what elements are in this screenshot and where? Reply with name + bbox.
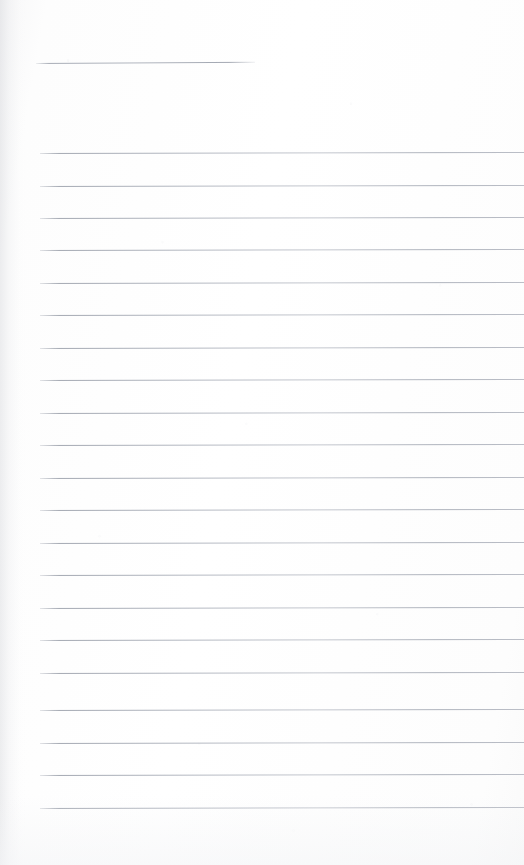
rule-line (40, 185, 524, 187)
rule-line (40, 807, 524, 809)
rule-line (40, 477, 524, 479)
scanned-page (0, 0, 524, 865)
rule-line (40, 774, 524, 776)
rule-line (40, 709, 524, 711)
rule-line (40, 314, 524, 316)
rule-line (40, 509, 524, 511)
rule-line (40, 152, 524, 154)
rule-line (40, 217, 524, 219)
rule-line (40, 607, 524, 609)
rule-line (40, 379, 524, 381)
rule-line (40, 742, 524, 744)
header-rule-line (36, 62, 255, 64)
rule-line (40, 574, 524, 576)
rule-line (40, 639, 524, 641)
rule-line (40, 542, 524, 544)
rule-line (40, 347, 524, 349)
rule-line (40, 672, 524, 674)
rule-line (40, 249, 524, 251)
ruled-lines-group (0, 0, 524, 865)
rule-line (40, 282, 524, 284)
rule-line (40, 444, 524, 446)
rule-line (40, 412, 524, 414)
